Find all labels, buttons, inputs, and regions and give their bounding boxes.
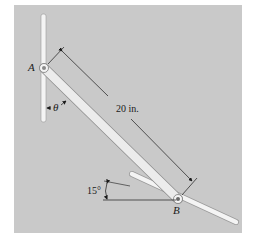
mechanism-diagram: A B θ 20 in. 15° <box>0 0 253 245</box>
background-panel <box>14 5 242 233</box>
label-theta: θ <box>53 101 59 113</box>
label-point-b: B <box>173 204 180 216</box>
joint-b <box>174 195 183 204</box>
label-length: 20 in. <box>116 103 139 114</box>
label-point-a: A <box>27 61 35 73</box>
label-angle-15: 15° <box>87 185 101 196</box>
joint-a <box>40 64 49 73</box>
